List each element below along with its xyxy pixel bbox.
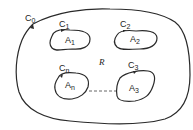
label-c2: C2	[120, 19, 131, 30]
label-c3: C3	[128, 60, 139, 71]
label-cn: Cn	[59, 63, 70, 74]
label-region-r: R	[98, 57, 105, 67]
diagram-canvas: C0 C1 A1 C2 A2 R Cn An C3 A3	[0, 0, 193, 130]
label-a1: A1	[65, 35, 75, 46]
arrow-icon	[133, 71, 137, 74]
label-a2: A2	[130, 34, 140, 45]
label-c1: C1	[59, 19, 70, 30]
multiply-connected-region-diagram: C0 C1 A1 C2 A2 R Cn An C3 A3	[0, 0, 193, 130]
label-a3: A3	[129, 83, 139, 94]
label-an: An	[65, 80, 75, 91]
label-c0: C0	[25, 13, 36, 24]
